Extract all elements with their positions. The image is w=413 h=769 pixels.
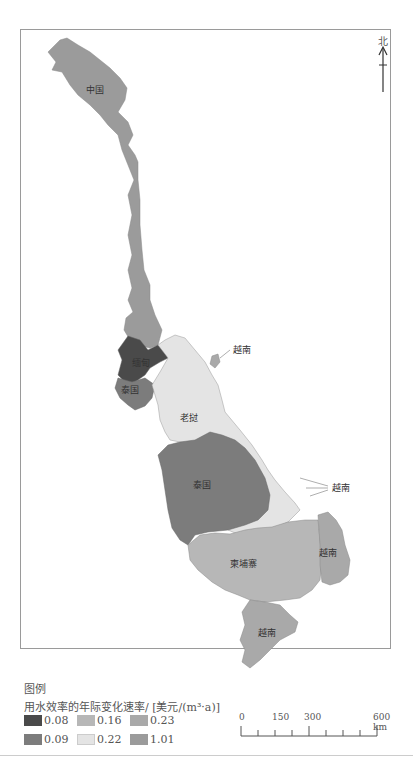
north-indicator: 北 (376, 33, 390, 48)
legend-label: 0.16 (97, 714, 122, 727)
label-vietnam-north: 越南 (233, 344, 251, 355)
region-china (48, 38, 162, 348)
legend-label: 0.08 (44, 714, 69, 727)
label-laos: 老挝 (180, 412, 198, 423)
legend-swatch (130, 734, 148, 745)
legend-item: 0.23 (130, 714, 175, 727)
leader-line (310, 490, 328, 496)
leader-line (300, 478, 328, 486)
north-label: 北 (376, 33, 390, 48)
mekong-basin-map: 中国 缅甸 泰国 老挝 泰国 柬埔寨 越南 越南 越南 越南 (0, 0, 413, 769)
legend-item: 1.01 (130, 733, 175, 746)
label-myanmar: 缅甸 (132, 357, 150, 368)
legend-label: 0.09 (44, 733, 69, 746)
legend-title: 图例 (24, 680, 46, 696)
legend-item: 0.08 (24, 714, 69, 727)
legend-label: 0.22 (97, 733, 122, 746)
label-thailand-north: 泰国 (121, 384, 139, 395)
legend-swatch (77, 715, 95, 726)
label-vietnam-east: 越南 (332, 482, 350, 493)
label-vietnam-south: 越南 (258, 627, 276, 638)
legend-swatch (130, 715, 148, 726)
legend-item: 0.16 (77, 714, 122, 727)
legend-label: 1.01 (150, 733, 175, 746)
region-vietnam-north-patch (210, 354, 220, 368)
legend-subtitle: 用水效率的年际变化速率/ [美元/(m³·a)] (24, 698, 220, 714)
legend-swatch (24, 734, 42, 745)
label-vietnam-central: 越南 (319, 547, 337, 558)
legend-item: 0.09 (24, 733, 69, 746)
label-thailand: 泰国 (193, 479, 211, 490)
legend-item: 0.22 (77, 733, 122, 746)
label-china: 中国 (86, 84, 104, 95)
divider (0, 755, 413, 756)
leader-line (220, 350, 230, 358)
legend-swatch (24, 715, 42, 726)
label-cambodia: 柬埔寨 (230, 558, 257, 569)
legend-label: 0.23 (150, 714, 175, 727)
scale-bar: 0 150 300 600 km (236, 712, 396, 742)
scale-bar-graphic (236, 712, 396, 742)
legend-swatch (77, 734, 95, 745)
north-arrow-icon (379, 47, 387, 92)
